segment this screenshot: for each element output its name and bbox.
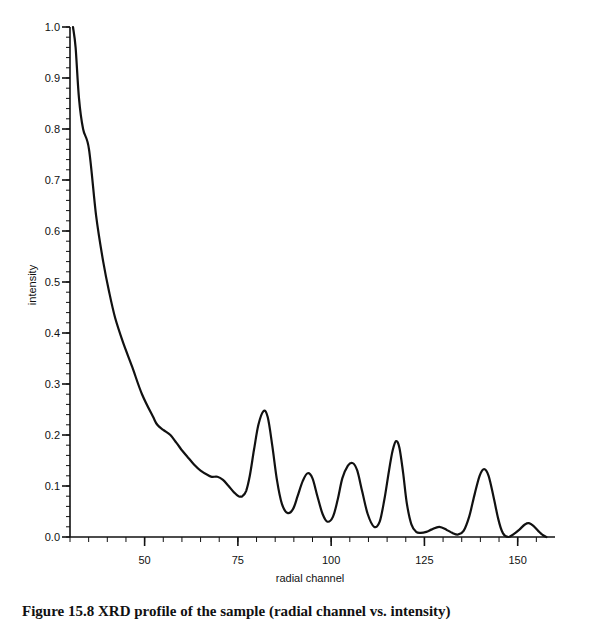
x-tick-label: 125 [415,554,433,566]
y-tick-label: 0.3 [45,378,60,390]
y-tick-label: 0.8 [45,123,60,135]
x-tick-label: 75 [232,554,244,566]
y-tick-label: 0.2 [45,429,60,441]
y-tick-label: 0.7 [45,174,60,186]
intensity-curve [73,27,546,537]
x-tick-label: 50 [138,554,150,566]
y-tick-label: 0.5 [45,276,60,288]
x-axis-label: radial channel [276,572,345,584]
y-axis-label: intensity [26,264,38,305]
x-ticks: 5075100125150 [70,537,536,566]
y-tick-label: 0.9 [45,72,60,84]
y-tick-label: 1.0 [45,21,60,33]
x-tick-label: 150 [509,554,527,566]
x-tick-label: 100 [322,554,340,566]
y-axis: 0.00.10.20.30.40.50.60.70.80.91.0 [45,21,70,543]
y-tick-label: 0.1 [45,480,60,492]
y-tick-label: 0.4 [45,327,60,339]
y-tick-label: 0.6 [45,225,60,237]
y-tick-label: 0.0 [45,531,60,543]
figure-caption: Figure 15.8 XRD profile of the sample (r… [22,603,451,620]
x-axis: 5075100125150 [70,537,555,566]
y-ticks: 0.00.10.20.30.40.50.60.70.80.91.0 [45,21,70,543]
